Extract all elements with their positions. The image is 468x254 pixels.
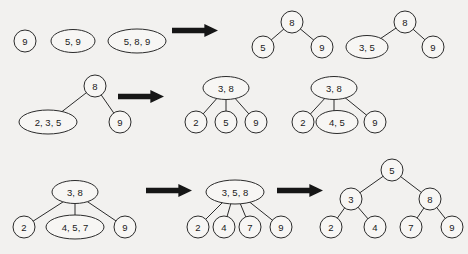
tree-node[interactable]: 4, 5, 7 (46, 215, 104, 239)
node-label: 4, 5 (329, 117, 345, 128)
step-2-c: 3, 824, 59 (292, 77, 386, 134)
tree-node[interactable]: 5 (215, 111, 237, 133)
node-label: 3, 8 (326, 83, 342, 94)
node-label: 9 (319, 42, 324, 53)
step-3-b: 3, 5, 82479 (187, 180, 292, 238)
tree-node[interactable]: 3, 8 (203, 77, 249, 100)
node-label: 3, 5 (359, 42, 375, 53)
node-label: 3, 8 (218, 83, 234, 94)
node-label: 2 (328, 222, 333, 233)
node-label: 8 (427, 194, 432, 205)
node-label: 2 (300, 117, 305, 128)
tree-node[interactable]: 4 (364, 216, 386, 238)
tree-diagram: 95, 95, 8, 985983, 5982, 3, 593, 82593, … (0, 0, 468, 254)
node-label: 9 (22, 36, 27, 47)
node-label: 8 (289, 17, 294, 28)
node-label: 4, 5, 7 (62, 222, 88, 233)
tree-node[interactable]: 9 (114, 216, 136, 238)
tree-node[interactable]: 9 (311, 36, 333, 58)
tree-node[interactable]: 9 (109, 111, 131, 133)
node-label: 7 (247, 222, 252, 233)
arrow-row3-second-icon (277, 184, 323, 197)
step-1-d: 859 (252, 11, 333, 58)
tree-node[interactable]: 3, 5, 8 (206, 180, 264, 204)
tree-node[interactable]: 4 (213, 216, 235, 238)
step-2-a: 82, 3, 59 (19, 75, 131, 134)
tree-node[interactable]: 2 (185, 111, 207, 133)
node-label: 2, 3, 5 (35, 117, 61, 128)
row-2: 82, 3, 593, 82593, 824, 59 (19, 75, 386, 134)
node-label: 4 (221, 222, 226, 233)
tree-node[interactable]: 4, 5 (316, 111, 358, 134)
node-label: 5 (389, 165, 394, 176)
node-label: 2 (195, 222, 200, 233)
node-label: 2 (193, 117, 198, 128)
tree-node[interactable]: 9 (441, 216, 463, 238)
node-label: 3 (348, 194, 353, 205)
tree-node[interactable]: 7 (239, 216, 261, 238)
tree-node[interactable]: 2 (187, 216, 209, 238)
row-1: 95, 95, 8, 985983, 59 (14, 11, 444, 59)
arrow-row2-icon (118, 90, 164, 103)
arrow-row3-first-icon (146, 184, 192, 197)
tree-node[interactable]: 2, 3, 5 (19, 110, 77, 134)
tree-node[interactable]: 2 (292, 111, 314, 133)
step-1-c: 5, 8, 9 (108, 29, 166, 53)
node-label: 5, 8, 9 (124, 36, 150, 47)
node-label: 9 (449, 222, 454, 233)
tree-node[interactable]: 7 (400, 216, 422, 238)
tree-node[interactable]: 5, 8, 9 (108, 29, 166, 53)
tree-node[interactable]: 9 (422, 36, 444, 58)
node-label: 3, 8 (67, 187, 83, 198)
node-label: 5, 9 (65, 36, 81, 47)
tree-node[interactable]: 8 (419, 188, 441, 210)
node-label: 5 (260, 42, 265, 53)
tree-node[interactable]: 8 (281, 11, 303, 33)
node-label: 7 (408, 222, 413, 233)
step-3-c: 5382479 (320, 159, 463, 238)
node-label: 9 (430, 42, 435, 53)
node-label: 5 (223, 117, 228, 128)
diagram-canvas: 95, 95, 8, 985983, 5982, 3, 593, 82593, … (0, 0, 468, 254)
node-label: 9 (122, 222, 127, 233)
tree-node[interactable]: 3 (340, 188, 362, 210)
tree-node[interactable]: 9 (364, 111, 386, 133)
tree-node[interactable]: 2 (320, 216, 342, 238)
node-label: 8 (92, 81, 97, 92)
row-3: 3, 824, 5, 793, 5, 824795382479 (13, 159, 463, 239)
node-label: 9 (278, 222, 283, 233)
step-1-a: 9 (14, 30, 36, 52)
tree-node[interactable]: 5, 9 (51, 30, 95, 53)
tree-node[interactable]: 5 (252, 36, 274, 58)
tree-node[interactable]: 3, 5 (346, 36, 388, 59)
node-label: 9 (253, 117, 258, 128)
tree-node[interactable]: 9 (270, 216, 292, 238)
node-label: 9 (117, 117, 122, 128)
tree-node[interactable]: 2 (13, 216, 35, 238)
tree-node[interactable]: 3, 8 (311, 77, 357, 100)
step-1-e: 83, 59 (346, 11, 444, 59)
tree-node[interactable]: 8 (84, 75, 106, 97)
step-2-b: 3, 8259 (185, 77, 267, 134)
tree-node[interactable]: 8 (394, 11, 416, 33)
step-3-a: 3, 824, 5, 79 (13, 181, 136, 240)
arrow-row1-icon (172, 24, 218, 37)
tree-node[interactable]: 5 (381, 159, 403, 181)
node-label: 4 (372, 222, 377, 233)
node-label: 9 (372, 117, 377, 128)
node-label: 3, 5, 8 (222, 187, 248, 198)
tree-node[interactable]: 3, 8 (52, 181, 98, 204)
step-1-b: 5, 9 (51, 30, 95, 53)
tree-node[interactable]: 9 (14, 30, 36, 52)
tree-node[interactable]: 9 (245, 111, 267, 133)
node-label: 8 (402, 17, 407, 28)
node-label: 2 (21, 222, 26, 233)
